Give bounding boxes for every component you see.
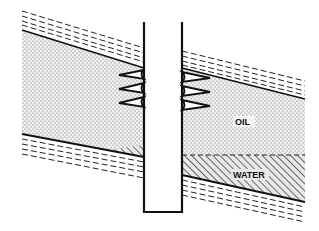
perforations-left (119, 70, 144, 107)
perforations-right (182, 72, 210, 110)
well-casing (144, 22, 182, 212)
water-label: WATER (233, 170, 265, 180)
oil-zone-right (182, 68, 305, 155)
oil-label: OIL (235, 117, 251, 127)
oil-well-diagram: OIL WATER (0, 0, 319, 231)
